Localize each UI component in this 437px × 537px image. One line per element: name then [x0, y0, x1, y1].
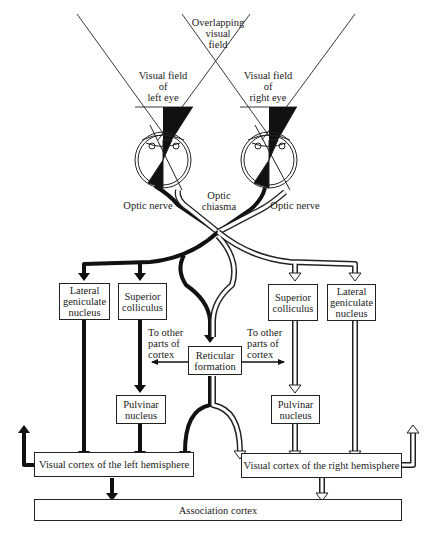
lateral-geniculate-nucleus-right: Lateral geniculate nucleus [327, 284, 376, 321]
right-eye-icon [241, 125, 297, 190]
overlapping-visual-field-label: Overlapping visual field [186, 17, 250, 50]
pulvinar-nucleus-left: Pulvinar nucleus [116, 395, 166, 424]
optic-chiasma-label: Optic chiasma [197, 190, 241, 212]
superior-colliculus-left: Superior colliculus [118, 283, 167, 320]
lateral-geniculate-nucleus-left: Lateral geniculate nucleus [59, 283, 110, 320]
field-wedges [163, 107, 297, 140]
visual-cortex-right-hemisphere: Visual cortex of the right hemisphere [241, 453, 402, 478]
superior-colliculus-right: Superior colliculus [268, 284, 318, 321]
optic-nerve-left-label: Optic nerve [118, 200, 178, 211]
association-cortex: Association cortex [34, 499, 402, 521]
left-eye-icon [135, 125, 191, 190]
left-eye-visual-field-label: Visual field of left eye [130, 70, 196, 103]
right-eye-visual-field-label: Visual field of right eye [235, 70, 301, 103]
to-other-cortex-right-label: To other parts of cortex [247, 327, 282, 360]
visual-cortex-left-hemisphere: Visual cortex of the left hemisphere [34, 452, 194, 477]
to-other-cortex-left-label: To other parts of cortex [148, 327, 183, 360]
reticular-formation: Reticular formation [188, 346, 242, 375]
optic-nerve-right-label: Optic nerve [265, 200, 325, 211]
pulvinar-nucleus-right: Pulvinar nucleus [271, 395, 320, 424]
